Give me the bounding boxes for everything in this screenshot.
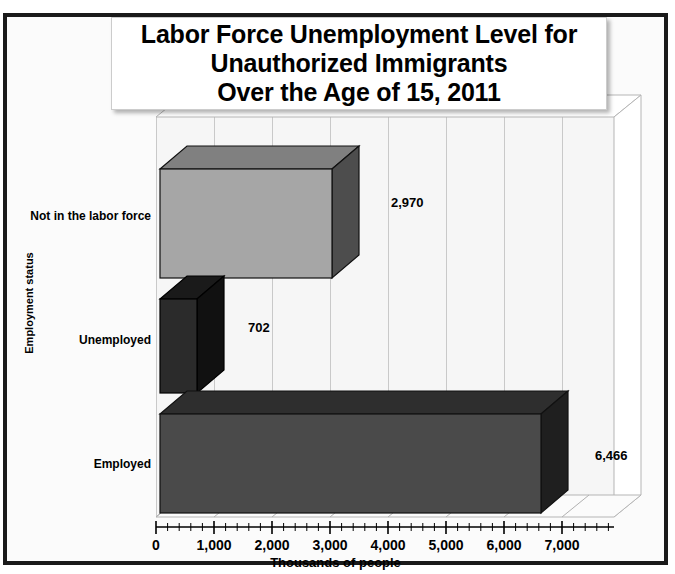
category-label-employed: Employed [7,457,151,471]
x-tick-label-1000: 1,000 [196,537,231,553]
x-tick-label-7000: 7,000 [544,537,579,553]
bar-unemployed[interactable] [156,272,266,402]
category-label-not-in-the-labor-force: Not in the labor force [7,209,151,223]
chart-frame: 2,970 702 6,466 Not in the labor force U… [3,13,668,565]
x-tick-label-5000: 5,000 [428,537,463,553]
chart-title-line-1: Labor Force Unemployment Level for [141,20,577,49]
data-label-not-in-the-labor-force: 2,970 [391,195,424,210]
bar-employed[interactable] [156,387,596,522]
data-label-unemployed: 702 [248,320,270,335]
chart-title-line-3: Over the Age of 15, 2011 [217,78,500,107]
x-tick-label-0: 0 [152,537,160,553]
x-tick-label-6000: 6,000 [486,537,521,553]
x-tick-label-2000: 2,000 [254,537,289,553]
chart-title-box: Labor Force Unemployment Level for Unaut… [111,17,607,110]
x-axis-title: Thousands of people [7,555,664,570]
data-label-employed: 6,466 [595,448,628,463]
bar-not-in-the-labor-force[interactable] [156,142,386,287]
chart-title-line-2: Unauthorized Immigrants [211,49,508,78]
x-tick-label-3000: 3,000 [312,537,347,553]
y-axis-title: Employment status [23,233,35,373]
x-tick-label-4000: 4,000 [370,537,405,553]
